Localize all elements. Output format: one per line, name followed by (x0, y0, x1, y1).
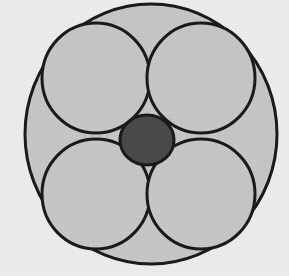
circle-packing-figure (0, 0, 289, 276)
diagram-canvas: Circle packing: four equal circles inscr… (0, 0, 289, 276)
inner-circle-top-right (147, 23, 255, 133)
center-circle (120, 115, 174, 165)
